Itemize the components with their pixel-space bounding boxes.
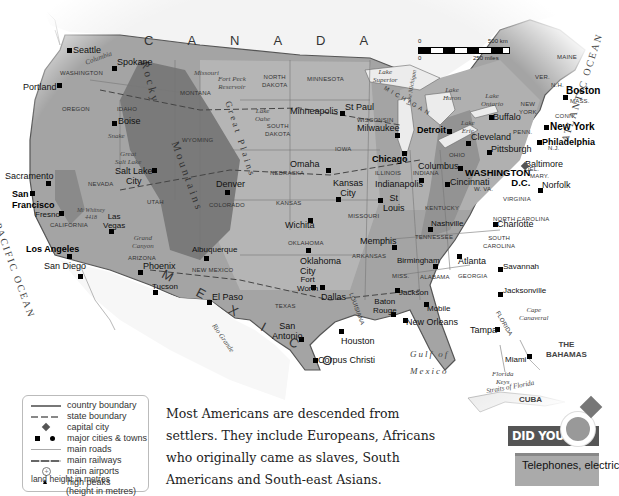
label-florida-keys: FloridaKeys [492,370,513,386]
city-baltimore: Baltimore [525,160,563,169]
label-fort-peck: Fort PeckReservoir [218,75,246,91]
body-line-3: who originally came as slaves, South [166,447,466,469]
label-snake-river: Snake [108,133,125,140]
city-sacramento: Sacramento [5,172,54,181]
state-texas: TEXAS [275,303,296,309]
state-oklahoma: OKLAHOMA [288,240,324,246]
city-pittsburgh: Pittsburgh [491,145,532,154]
city-detroit: Detroit [417,126,446,135]
state-new-york: NEWYORK [519,100,537,116]
state-maine: MAINE [557,54,577,60]
city-minneapolis: Minneapolis [290,107,338,116]
state-nevada: NEVADA [88,181,113,187]
body-line-4: Americans and South-east Asians. [166,469,466,491]
city-marker-omaha [326,168,331,173]
city-san-antonio: SanAntonio [272,321,303,341]
label-cape-canaveral: CapeCanaveral [519,306,549,322]
scale-km-end: 500 km [488,38,508,44]
city-marker-miami [527,354,532,359]
city-birmingham: Birmingham [397,257,440,265]
state-california: CALIFORNIA [50,222,88,228]
city-houston: Houston [341,337,375,346]
city-marker-new-york [544,125,549,130]
did-you-know-text: Telephones, electric [522,459,619,471]
city-st-louis: StLouis [383,193,405,213]
legend-height-note: (height in metres) [66,487,136,496]
state-mary: MARY. [530,173,549,179]
label-lake-oahe: LakeOahe [255,107,270,123]
square-icon [35,436,40,441]
city-marker-sacramento [46,181,51,186]
city-marker-albuquerque [204,256,209,261]
city-milwaukee: Milwaukee [357,124,400,133]
state-conn: CONN. [555,113,575,119]
scale-km-start: 0 [418,38,421,44]
city-marker-portland [57,83,62,88]
city-cleveland: Cleveland [471,133,511,142]
state-arkansas: ARKANSAS [352,253,386,259]
capital-washington-dc: WASHINGTOND.C. [465,168,530,188]
city-new-york: New York [550,122,595,132]
state-north-dakota: NORTHDAKOTA [262,73,287,89]
state-montana: MONTANA [180,90,211,96]
city-oklahoma-city: OklahomaCity [300,256,341,276]
solid-line-icon [31,405,61,407]
city-columbus: Columbus [418,162,459,171]
city-wichita: Wichita [285,221,315,230]
city-las-vegas: LasVegas [103,212,125,230]
state-idaho: IDAHO [117,106,137,112]
city-chicago: Chicago [372,155,408,164]
city-new-orleans: New Orleans [406,318,458,327]
legend-land-height: land height in metres [31,475,110,484]
city-indianapolis: Indianapolis [375,180,423,189]
dot-icon [50,436,55,441]
label-gulf-of-mexico-2: Mexico [410,367,448,376]
state-minnesota: MINNESOTA [307,76,344,82]
label-missouri-river: Missouri [194,70,219,77]
city-marker-houston [339,329,344,334]
city-salt-lake-city: Salt LakeCity [115,166,153,186]
city-boise: Boise [118,117,141,126]
state-ver: VER. [535,74,550,80]
city-san-diego: San Diego [44,262,86,271]
state-missouri: MISSOURI [348,213,379,219]
state-miss: MISS. [392,273,409,279]
state-colorado: COLORADO [209,202,245,208]
state-kentucky: KENTUCKY [425,205,459,211]
scale-bar-graphic [418,47,510,54]
body-line-1: Most Americans are descended from [166,403,466,425]
state-oregon: OREGON [62,106,90,112]
city-miami: Miami [505,356,526,364]
state-georgia: GEORGIA [458,273,487,279]
city-atlanta: Atlanta [458,257,486,266]
city-kansas-city: KansasCity [333,178,363,198]
city-fort-worth: FortWorth [297,275,318,293]
road-line-icon [31,449,61,450]
city-st-paul: St Paul [345,103,374,112]
state-nh: N.H. [551,82,564,88]
label-grand-canyon: GrandCanyon [132,234,154,250]
city-tucson: Tucson [152,283,178,291]
state-south-carolina: SOUTHCAROLINA [483,234,515,250]
scale-mi-end: 250 miles [473,55,499,61]
city-omaha: Omaha [290,160,320,169]
city-baton-rouge: BatonRouge [373,297,397,315]
city-buffalo: Buffalo [493,113,521,122]
label-bahamas: THEBAHAMAS [546,340,587,360]
city-denver: Denver [216,180,245,189]
city-charlotte: Charlotte [497,220,534,229]
dashed-line-icon [31,416,61,418]
city-dallas: Dallas [321,293,346,302]
city-marker-oklahoma-city [306,248,311,253]
city-mobile: Mobile [427,305,451,313]
city-tampa: Tampa [470,326,497,335]
label-lake-huron: LakeHuron [443,86,461,102]
label-lake-superior: LakeSuperior [373,68,398,84]
city-philadelphia: Philadelphia [542,138,595,147]
city-norfolk: Norfolk [542,181,571,190]
label-lake-ontario: LakeOntario [481,92,503,108]
railway-line-icon [31,460,61,462]
diamond-icon [42,423,50,431]
state-tennessee: TENNESSEE [415,234,453,240]
city-el-paso: El Paso [212,293,243,302]
